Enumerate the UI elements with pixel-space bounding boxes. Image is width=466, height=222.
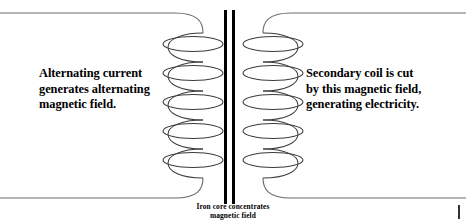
secondary-coil-turn: [243, 95, 303, 110]
primary-coil-arc: [168, 33, 203, 62]
secondary-annotation-line-1: Secondary coil is cut: [306, 66, 421, 82]
iron-core-caption-line-1: Iron core concentrates: [0, 202, 466, 211]
bottom-wire-lead-left: [0, 178, 203, 198]
secondary-annotation-line-2: by this magnetic field,: [306, 82, 421, 98]
secondary-coil-turn: [243, 124, 303, 139]
bottom-wire-lead-right: [263, 178, 466, 198]
secondary-coil: [243, 33, 303, 178]
primary-coil-arc: [168, 91, 203, 120]
primary-coil-arc: [168, 120, 203, 149]
primary-coil-turn: [163, 95, 223, 110]
top-wire-lead-right: [263, 13, 466, 33]
secondary-coil-arc: [263, 33, 298, 62]
primary-coil-turn: [163, 66, 223, 81]
secondary-coil-turn: [243, 37, 303, 52]
primary-coil-arc: [168, 149, 203, 178]
iron-core-caption: Iron core concentrates magnetic field: [0, 202, 466, 221]
iron-core-bar-left: [224, 10, 227, 204]
secondary-annotation-line-3: generating electricity.: [306, 97, 421, 113]
primary-annotation-line-1: Alternating current: [39, 66, 150, 82]
primary-annotation-line-2: generates alternating: [39, 82, 150, 98]
primary-coil: [163, 33, 223, 178]
primary-annotation: Alternating current generates alternatin…: [39, 66, 150, 113]
secondary-coil-arc: [263, 120, 298, 149]
iron-core: [224, 10, 235, 204]
primary-coil-turn: [163, 153, 223, 168]
secondary-annotation: Secondary coil is cut by this magnetic f…: [306, 66, 421, 113]
secondary-coil-turn: [243, 66, 303, 81]
secondary-coil-arc: [263, 149, 298, 178]
top-wire-lead-left: [0, 13, 203, 33]
transformer-diagram-canvas: Alternating current generates alternatin…: [0, 0, 466, 222]
iron-core-caption-line-2: magnetic field: [0, 211, 466, 220]
primary-coil-turn: [163, 124, 223, 139]
secondary-coil-turn: [243, 153, 303, 168]
corner-tick-mark: [458, 205, 460, 219]
secondary-coil-arc: [263, 91, 298, 120]
primary-coil-arc: [168, 62, 203, 91]
secondary-coil-arc: [263, 62, 298, 91]
primary-coil-turn: [163, 37, 223, 52]
iron-core-bar-right: [232, 10, 235, 204]
primary-annotation-line-3: magnetic field.: [39, 97, 150, 113]
